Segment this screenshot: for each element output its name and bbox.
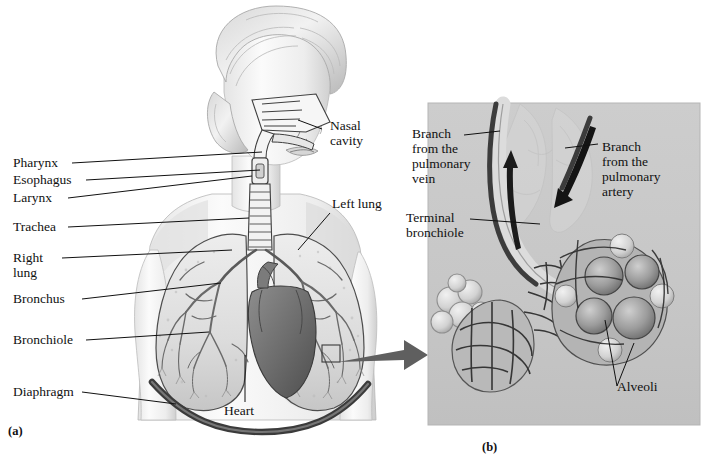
leader-bronchus [82,283,221,299]
label-heart: Heart [224,403,254,418]
caption-panel-b: (b) [482,440,497,455]
label-diaphragm: Diaphragm [13,384,74,399]
label-terminal-bronchiole: Terminal bronchiole [406,210,464,240]
label-branch-pulmonary-vein: Branch from the pulmonary vein [412,126,468,186]
label-esophagus: Esophagus [13,172,72,187]
leader-left-lung [298,213,330,250]
leader-bronchiole [86,332,209,340]
label-right-lung: Right lung [13,250,43,280]
leader-nasal-cavity [298,120,322,129]
leader-pharynx [72,152,262,163]
label-trachea: Trachea [13,219,56,234]
label-bronchiole: Bronchiole [13,332,73,347]
label-larynx: Larynx [13,190,52,205]
leader-branch-vein [464,131,500,135]
respiratory-system-figure: Pharynx Esophagus Larynx Trachea Right l… [0,0,705,461]
leader-terminal-bronchiole [470,219,540,224]
label-branch-pulmonary-artery: Branch from the pulmonary artery [602,139,661,199]
leader-right-lung [62,250,232,258]
label-pharynx: Pharynx [13,155,58,170]
caption-panel-a: (a) [8,424,23,439]
label-nasal-cavity: Nasal cavity [330,118,363,148]
leader-lines [0,0,705,461]
label-bronchus: Bronchus [13,291,65,306]
label-alveoli: Alveoli [617,379,658,394]
leader-branch-artery [565,144,598,148]
leader-alveoli-2 [605,320,617,386]
label-left-lung: Left lung [332,196,382,211]
leader-trachea [68,218,249,227]
leader-diaphragm [82,392,176,404]
